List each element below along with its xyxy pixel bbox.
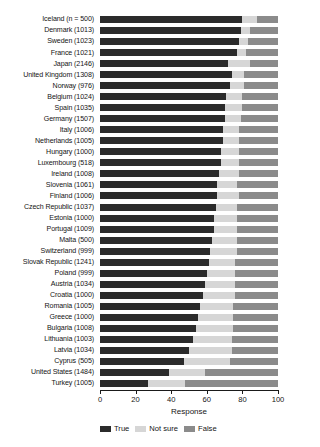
- bar-segment-true: [100, 16, 242, 23]
- bar-row: [100, 380, 278, 387]
- bar-row: [100, 137, 278, 144]
- bar-segment-false: [244, 82, 278, 89]
- bar-segment-not-sure: [214, 226, 237, 233]
- bar-segment-not-sure: [169, 369, 205, 376]
- x-axis-tick: [207, 390, 208, 394]
- bar-row: [100, 336, 278, 343]
- legend-item-false: False: [184, 424, 217, 433]
- bar-segment-not-sure: [241, 27, 250, 34]
- plot-area: [100, 14, 278, 389]
- x-axis-title: Response: [100, 407, 278, 416]
- x-axis-tick-label: 40: [167, 395, 175, 404]
- bar-row: [100, 325, 278, 332]
- category-label: Croatia (1000): [50, 291, 94, 299]
- bar-row: [100, 71, 278, 78]
- category-label: Belgium (1024): [47, 93, 94, 101]
- bar-segment-false: [237, 181, 278, 188]
- bar-row: [100, 226, 278, 233]
- bar-segment-not-sure: [225, 115, 241, 122]
- x-axis-tick: [242, 390, 243, 394]
- category-label: Malta (500): [59, 236, 94, 244]
- bar-segment-not-sure: [225, 104, 243, 111]
- bar-segment-true: [100, 248, 210, 255]
- bar-segment-not-sure: [242, 16, 256, 23]
- x-axis-tick: [100, 390, 101, 394]
- x-axis-tick: [136, 390, 137, 394]
- bar-segment-false: [232, 336, 278, 343]
- bar-row: [100, 126, 278, 133]
- legend-swatch-not-sure-icon: [135, 426, 146, 432]
- bar-segment-true: [100, 303, 200, 310]
- category-label: United States (1484): [31, 368, 94, 376]
- category-label: Netherlands (1005): [35, 137, 94, 145]
- bar-segment-true: [100, 237, 212, 244]
- bar-segment-true: [100, 137, 223, 144]
- bar-segment-false: [235, 270, 278, 277]
- bar-segment-false: [237, 248, 278, 255]
- bar-row: [100, 281, 278, 288]
- bar-rows: [100, 14, 278, 389]
- bar-row: [100, 159, 278, 166]
- bar-segment-not-sure: [232, 71, 244, 78]
- bar-segment-not-sure: [223, 126, 239, 133]
- bar-segment-false: [239, 126, 278, 133]
- bar-segment-true: [100, 347, 189, 354]
- category-label: Germany (1507): [44, 115, 94, 123]
- bar-segment-false: [237, 215, 278, 222]
- category-label: Ireland (1008): [51, 170, 94, 178]
- bar-segment-true: [100, 126, 223, 133]
- bar-segment-false: [239, 170, 278, 177]
- category-label: Romania (1005): [45, 302, 94, 310]
- bar-segment-true: [100, 148, 221, 155]
- bar-segment-false: [257, 16, 278, 23]
- category-label: Iceland (n = 500): [42, 15, 94, 23]
- bar-segment-true: [100, 115, 225, 122]
- bar-segment-false: [239, 159, 278, 166]
- bar-segment-true: [100, 82, 230, 89]
- bar-segment-not-sure: [198, 314, 234, 321]
- x-axis-tick-label: 100: [272, 395, 285, 404]
- bar-segment-not-sure: [228, 60, 249, 67]
- bar-row: [100, 93, 278, 100]
- bar-row: [100, 259, 278, 266]
- bar-row: [100, 16, 278, 23]
- bar-row: [100, 215, 278, 222]
- category-label: Bulgaria (1008): [47, 324, 94, 332]
- bar-segment-not-sure: [212, 237, 237, 244]
- bar-segment-false: [237, 204, 278, 211]
- bar-row: [100, 358, 278, 365]
- category-label: Slovak Republic (1241): [23, 258, 94, 266]
- bar-segment-not-sure: [209, 259, 236, 266]
- bar-row: [100, 170, 278, 177]
- bar-row: [100, 148, 278, 155]
- bar-segment-false: [237, 226, 278, 233]
- bar-segment-true: [100, 336, 193, 343]
- bar-row: [100, 292, 278, 299]
- bar-segment-false: [244, 71, 278, 78]
- bar-row: [100, 49, 278, 56]
- bar-segment-false: [241, 115, 278, 122]
- category-label: Luxembourg (518): [38, 159, 94, 167]
- bar-segment-true: [100, 170, 219, 177]
- bar-segment-false: [239, 137, 278, 144]
- category-label: Poland (999): [55, 269, 94, 277]
- bar-row: [100, 192, 278, 199]
- bar-segment-not-sure: [210, 248, 237, 255]
- bar-segment-not-sure: [193, 336, 232, 343]
- bar-segment-false: [233, 303, 278, 310]
- bar-segment-false: [250, 60, 278, 67]
- bar-segment-not-sure: [226, 93, 242, 100]
- category-label: Finland (1006): [50, 192, 94, 200]
- bar-segment-false: [233, 325, 278, 332]
- bar-segment-true: [100, 93, 226, 100]
- bar-segment-true: [100, 49, 237, 56]
- legend-swatch-true-icon: [100, 426, 111, 432]
- category-label: Latvia (1034): [54, 346, 94, 354]
- bar-row: [100, 347, 278, 354]
- bar-segment-not-sure: [219, 170, 239, 177]
- bar-segment-true: [100, 380, 148, 387]
- bar-segment-not-sure: [184, 358, 230, 365]
- category-label: Sweden (1023): [47, 37, 94, 45]
- bar-segment-not-sure: [221, 159, 239, 166]
- x-axis-tick-label: 60: [203, 395, 211, 404]
